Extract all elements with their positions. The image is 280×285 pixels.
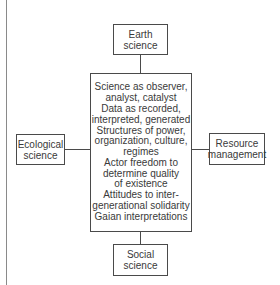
node-center-themes: Science as observer, analyst, catalyst D…: [90, 73, 192, 232]
node-label-line: Social: [127, 249, 154, 260]
node-label-line: Earth: [129, 29, 153, 40]
node-label-line: science: [124, 260, 158, 271]
connector-ecology-to-center: [65, 149, 90, 150]
node-label-line: Ecological: [18, 139, 64, 150]
node-resource-management: Resource management: [209, 133, 265, 165]
connector-center-to-social: [140, 232, 141, 244]
center-line: Gaian interpretations: [95, 212, 188, 223]
node-earth-science: Earth science: [113, 24, 168, 55]
center-line: interpreted, generated: [92, 115, 190, 126]
connector-center-to-resource: [192, 149, 209, 150]
node-label-line: management: [208, 149, 266, 160]
node-label-line: science: [24, 150, 58, 161]
connector-earth-to-center: [140, 55, 141, 73]
node-label-line: science: [124, 40, 158, 51]
node-social-science: Social science: [113, 244, 168, 276]
node-ecological-science: Ecological science: [16, 134, 65, 165]
page-margin-rule: [6, 0, 7, 285]
node-label-line: Resource: [216, 138, 259, 149]
